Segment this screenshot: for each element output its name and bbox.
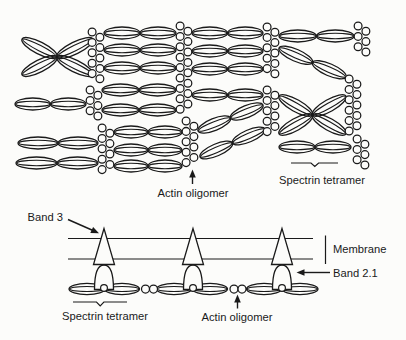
band3-arrow-line <box>68 220 93 231</box>
spectrin-tetramer-chain <box>54 34 95 63</box>
actin-junction-bead <box>271 123 279 131</box>
actin-junction-bead <box>96 54 104 62</box>
spectrin-tetramer-bracket-bottom <box>73 302 127 306</box>
actin-junction-bead <box>345 86 353 94</box>
actin-junction-bead <box>345 117 353 125</box>
actin-junction-bead <box>263 117 271 125</box>
actin-junction-bead <box>345 127 353 135</box>
actin-junction-bead <box>86 86 94 94</box>
actin-junction-bead <box>184 48 192 56</box>
actin-junction-bead <box>176 22 184 30</box>
actin-junction-bead <box>362 27 370 35</box>
actin-junction-bead <box>184 38 192 46</box>
actin-junction-bead <box>96 65 104 73</box>
spectrin-tetramer-chain <box>19 52 59 81</box>
actin-junction-bead <box>271 91 279 99</box>
dome-base-bead <box>101 285 108 292</box>
actin-junction-bead <box>98 135 106 143</box>
spectrin-tetramer-chain <box>114 144 182 156</box>
label-actin-oligomer-top: Actin oligomer <box>158 187 229 199</box>
actin-junction-bead <box>86 97 94 105</box>
actin-junction-bead <box>88 39 96 47</box>
spectrin-tetramer-chain <box>102 84 176 96</box>
actin-junction-bead <box>263 44 271 52</box>
membrane-skeleton-diagram: Actin oligomer Spectrin tetramer Band 3 … <box>0 0 406 340</box>
actin-junction-bead <box>353 122 361 130</box>
spectrin-tetramer-chain <box>16 157 98 169</box>
spectrin-tetramer-chain <box>104 62 176 74</box>
actin-oligomer-junction <box>98 124 114 173</box>
band3-protein <box>94 229 115 265</box>
actin-junction-bead <box>176 85 184 93</box>
actin-junction-bead <box>263 86 271 94</box>
actin-junction-bead <box>182 159 190 167</box>
actin-junction-bead <box>271 60 279 68</box>
actin-oligomer-junction <box>354 22 370 56</box>
actin-oligomer-junction <box>353 135 369 169</box>
actin-junction-bead <box>361 161 369 169</box>
actin-junction-bead <box>182 127 190 135</box>
spectrin-tetramer-chain <box>279 141 351 153</box>
actin-junction-bead <box>263 54 271 62</box>
actin-junction-bead <box>94 102 102 110</box>
actin-junction-bead <box>263 23 271 31</box>
actin-junction-bead <box>271 39 279 47</box>
actin-junction-bead <box>184 27 192 35</box>
actin-junction-bead <box>190 122 198 130</box>
actin-junction-bead <box>271 70 279 78</box>
actin-oligomer-bottom-arrowhead-icon <box>234 295 241 303</box>
actin-junction-bead <box>98 166 106 174</box>
actin-junction-bead <box>353 80 361 88</box>
actin-junction-bead <box>271 112 279 120</box>
actin-junction-bead <box>353 91 361 99</box>
actin-junction-bead <box>176 95 184 103</box>
actin-junction-bead <box>106 150 114 158</box>
label-band-2-1: Band 2.1 <box>333 267 378 279</box>
actin-junction-bead <box>354 22 362 30</box>
actin-junction-bead <box>362 38 370 46</box>
actin-junction-bead <box>96 75 104 83</box>
band3-protein <box>272 229 293 265</box>
actin-bead <box>230 285 238 293</box>
actin-junction-bead <box>182 117 190 125</box>
actin-junction-bead <box>88 49 96 57</box>
actin-junction-bead <box>184 100 192 108</box>
actin-junction-bead <box>176 33 184 41</box>
spectrin-tetramer-chain <box>192 63 263 75</box>
spectrin-tetramer-chain <box>15 98 86 110</box>
spectrin-tetramer-chain <box>192 45 263 57</box>
actin-junction-bead <box>353 135 361 143</box>
actin-junction-bead <box>86 107 94 115</box>
spectrin-tetramer-bracket-top <box>291 163 338 167</box>
actin-junction-bead <box>98 124 106 132</box>
actin-junction-bead <box>184 59 192 67</box>
top-annotations: Actin oligomer Spectrin tetramer <box>158 163 366 199</box>
actin-junction-bead <box>361 151 369 159</box>
actin-junction-bead <box>106 161 114 169</box>
actin-junction-bead <box>96 44 104 52</box>
actin-oligomer-junction <box>345 75 361 135</box>
actin-bead <box>150 285 158 293</box>
band21-arrowhead-icon <box>297 269 305 275</box>
spectrin-tetramer-chain <box>114 126 182 138</box>
spectrin-tetramer-chain <box>192 27 263 39</box>
actin-junction-bead <box>88 59 96 67</box>
actin-bead <box>142 285 150 293</box>
label-actin-oligomer-bottom: Actin oligomer <box>202 311 273 323</box>
actin-junction-bead <box>263 97 271 105</box>
actin-junction-bead <box>94 112 102 120</box>
bottom-annotations: Band 3 Membrane Band 2.1 Spectrin tetram… <box>28 211 387 323</box>
actin-junction-bead <box>345 106 353 114</box>
actin-junction-bead <box>354 33 362 41</box>
actin-junction-bead <box>96 33 104 41</box>
spectrin-tetramer-chain <box>277 42 349 82</box>
label-band-3: Band 3 <box>28 211 63 223</box>
actin-junction-bead <box>98 145 106 153</box>
actin-junction-bead <box>263 107 271 115</box>
membrane-cross-section: Band 3 Membrane Band 2.1 Spectrin tetram… <box>28 211 387 323</box>
actin-junction-bead <box>353 156 361 164</box>
actin-junction-bead <box>176 64 184 72</box>
dome-base-bead <box>279 285 286 292</box>
actin-junction-bead <box>362 48 370 56</box>
actin-junction-bead <box>263 34 271 42</box>
